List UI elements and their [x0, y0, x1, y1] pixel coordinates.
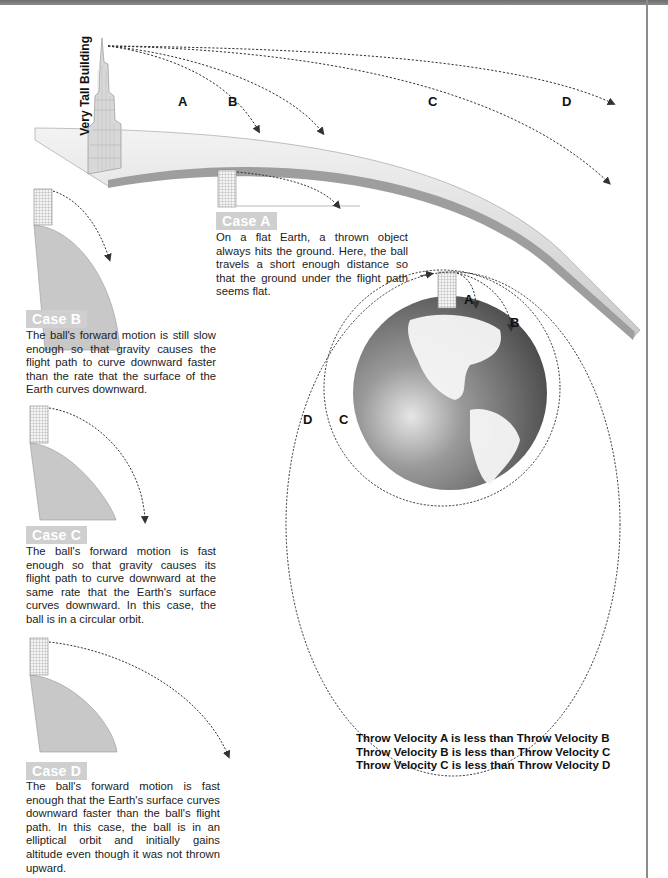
- case-c-diagram: [30, 406, 145, 520]
- globe-label-b: B: [510, 315, 519, 330]
- globe-label-c: C: [339, 412, 348, 427]
- summary-line-3: Throw Velocity C is less than Throw Velo…: [356, 759, 616, 773]
- case-b-text: The ball's forward motion is still slow …: [26, 329, 216, 397]
- summary-line-2: Throw Velocity B is less than Throw Velo…: [356, 746, 616, 760]
- trajectory-label-c: C: [428, 94, 437, 109]
- skyscraper-icon: [88, 38, 121, 174]
- case-c-label: Case C: [26, 526, 87, 544]
- case-d-diagram: [30, 638, 228, 755]
- case-a-text: On a flat Earth, a thrown object always …: [216, 231, 408, 299]
- globe-building-icon: [438, 272, 456, 308]
- trajectory-label-b: B: [228, 94, 237, 109]
- case-d-text: The ball's forward motion is fast enough…: [26, 780, 220, 875]
- trajectory-label-d: D: [562, 94, 571, 109]
- summary-line-1: Throw Velocity A is less than Throw Velo…: [356, 732, 616, 746]
- globe-label-d: D: [303, 412, 312, 427]
- building-label: Very Tall Building: [78, 36, 92, 136]
- case-a-label: Case A: [216, 212, 277, 230]
- trajectory-label-a: A: [178, 94, 187, 109]
- globe-label-a: A: [464, 292, 473, 307]
- case-d-label: Case D: [26, 762, 87, 780]
- case-b-label: Case B: [26, 310, 87, 328]
- case-c-text: The ball's forward motion is fast enough…: [26, 545, 216, 627]
- velocity-summary: Throw Velocity A is less than Throw Velo…: [356, 732, 616, 773]
